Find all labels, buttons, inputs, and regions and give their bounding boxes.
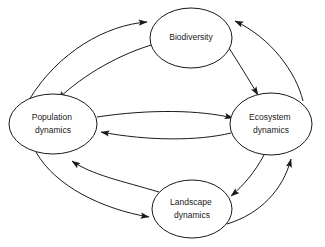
node-ecosystem-dynamics-shape bbox=[230, 93, 312, 155]
diagram-canvas: Biodiversity Population dynamics Ecosyst… bbox=[0, 0, 325, 247]
node-biodiversity[interactable]: Biodiversity bbox=[150, 8, 232, 68]
node-population-dynamics-line-1: Population bbox=[32, 112, 72, 122]
node-landscape-dynamics-line-1: Landscape bbox=[170, 197, 212, 207]
edge-ecosystem-to-population bbox=[101, 132, 231, 139]
node-ecosystem-dynamics[interactable]: Ecosystem dynamics bbox=[230, 93, 312, 155]
node-population-dynamics-shape bbox=[9, 94, 97, 154]
edge-landscape-to-population bbox=[72, 161, 159, 192]
node-ecosystem-dynamics-line-1: Ecosystem bbox=[249, 112, 291, 122]
node-ecosystem-dynamics-line-2: dynamics bbox=[253, 125, 289, 135]
edge-biodiversity-to-ecosystem bbox=[227, 45, 258, 95]
node-population-dynamics[interactable]: Population dynamics bbox=[9, 94, 97, 154]
node-population-dynamics-line-2: dynamics bbox=[35, 125, 71, 135]
node-biodiversity-line-1: Biodiversity bbox=[169, 32, 213, 42]
node-landscape-dynamics-line-2: dynamics bbox=[174, 210, 210, 220]
node-landscape-dynamics-shape bbox=[152, 180, 232, 238]
node-biodiversity-label: Biodiversity bbox=[169, 32, 213, 42]
node-landscape-dynamics[interactable]: Landscape dynamics bbox=[152, 180, 232, 238]
edge-ecosystem-to-landscape bbox=[231, 155, 264, 196]
ecological-cycle-diagram: Biodiversity Population dynamics Ecosyst… bbox=[0, 0, 325, 247]
edge-population-to-biodiversity bbox=[29, 22, 147, 100]
edge-ecosystem-to-biodiversity bbox=[235, 21, 303, 101]
edge-population-to-ecosystem bbox=[97, 111, 233, 118]
